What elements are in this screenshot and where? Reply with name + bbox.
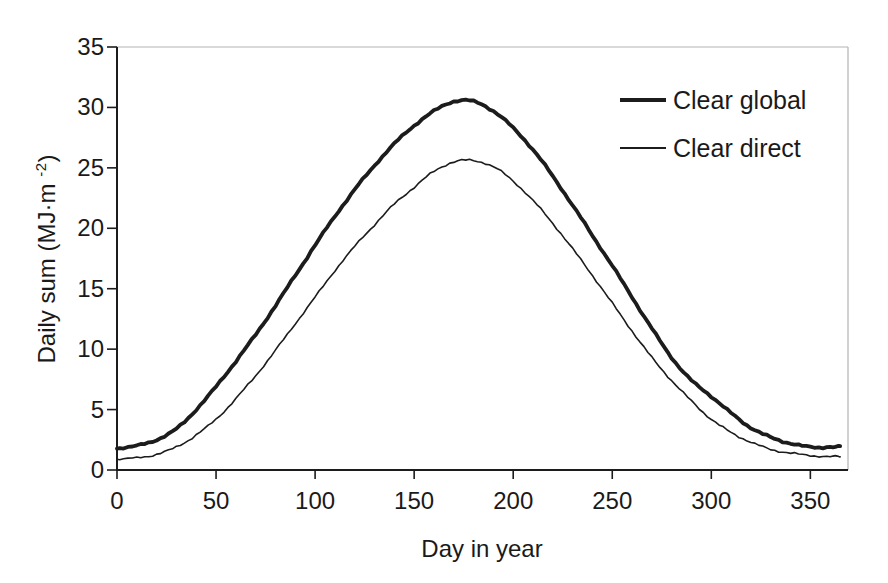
- y-tick-label-20: 20: [77, 216, 104, 240]
- y-tick-label-35: 35: [77, 35, 104, 59]
- y-tick-label-30: 30: [77, 95, 104, 119]
- x-tick-label-300: 300: [691, 489, 731, 513]
- y-tick-label-5: 5: [91, 398, 104, 422]
- legend-label-clear-global: Clear global: [673, 86, 806, 115]
- x-tick-label-0: 0: [110, 489, 123, 513]
- y-tick-label-0: 0: [91, 458, 104, 482]
- y-axis-title: Daily sum (MJ·m -2): [32, 155, 61, 364]
- y-tick-label-15: 15: [77, 277, 104, 301]
- y-tick-label-10: 10: [77, 337, 104, 361]
- legend-item-clear-direct: Clear direct: [620, 132, 806, 164]
- y-tick-label-25: 25: [77, 156, 104, 180]
- x-tick-label-200: 200: [493, 489, 533, 513]
- legend-item-clear-global: Clear global: [620, 84, 806, 116]
- x-tick-label-350: 350: [790, 489, 830, 513]
- legend-line-thin-icon: [620, 147, 666, 149]
- y-axis-title-text: Daily sum (MJ·m: [33, 177, 60, 364]
- y-axis-unit-exponent: -2: [32, 163, 49, 177]
- x-tick-label-100: 100: [295, 489, 335, 513]
- x-tick-label-50: 50: [203, 489, 230, 513]
- legend-label-clear-direct: Clear direct: [673, 134, 801, 163]
- x-axis-title: Day in year: [421, 535, 542, 563]
- legend: Clear global Clear direct: [620, 84, 806, 164]
- chart-figure: Daily sum (MJ·m -2) Day in year Clear gl…: [0, 0, 888, 583]
- y-axis-title-suffix: ): [33, 155, 60, 163]
- x-tick-label-250: 250: [592, 489, 632, 513]
- x-tick-label-150: 150: [394, 489, 434, 513]
- legend-line-thick-icon: [620, 98, 666, 102]
